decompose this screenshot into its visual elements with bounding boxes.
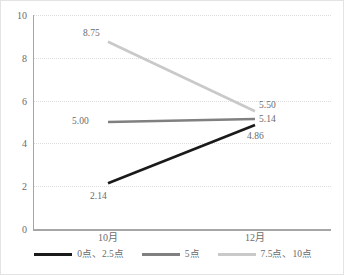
gridline-10 <box>33 15 331 16</box>
y-tick-label-0: 0 <box>1 225 27 235</box>
line-chart: 10 8 6 4 2 0 10月 12月 8.75 5.50 5.00 5.14… <box>0 0 344 275</box>
y-tick-label-10: 10 <box>1 11 27 21</box>
x-tick-label-december: 12月 <box>210 233 300 243</box>
point-label-dark-start: 2.14 <box>90 192 107 202</box>
x-axis-line <box>33 229 331 231</box>
y-tick-label-6: 6 <box>1 97 27 107</box>
y-axis-line <box>33 15 34 229</box>
y-tick-label-4: 4 <box>1 139 27 149</box>
point-label-gray-start: 5.00 <box>72 117 89 127</box>
legend: 0点、2.5点 5点 7.5点、10点 <box>1 250 344 260</box>
gridline-6 <box>33 101 331 102</box>
gridline-4 <box>33 143 331 144</box>
legend-label-gray: 5点 <box>185 250 200 260</box>
legend-swatch-dark-icon <box>34 253 72 256</box>
legend-item-light[interactable]: 7.5点、10点 <box>218 250 312 260</box>
point-label-dark-end: 4.86 <box>247 132 264 142</box>
point-label-light-start: 8.75 <box>83 29 100 39</box>
legend-label-dark: 0点、2.5点 <box>77 250 124 260</box>
point-label-gray-end: 5.14 <box>259 115 276 125</box>
legend-item-gray[interactable]: 5点 <box>142 250 200 260</box>
gridline-8 <box>33 58 331 59</box>
y-tick-label-2: 2 <box>1 182 27 192</box>
legend-item-dark[interactable]: 0点、2.5点 <box>34 250 124 260</box>
legend-swatch-gray-icon <box>142 253 180 256</box>
legend-swatch-light-icon <box>218 253 256 256</box>
point-label-light-end: 5.50 <box>259 101 276 111</box>
legend-label-light: 7.5点、10点 <box>261 250 312 260</box>
gridline-2 <box>33 186 331 187</box>
x-tick-label-october: 10月 <box>63 233 153 243</box>
y-tick-label-8: 8 <box>1 54 27 64</box>
